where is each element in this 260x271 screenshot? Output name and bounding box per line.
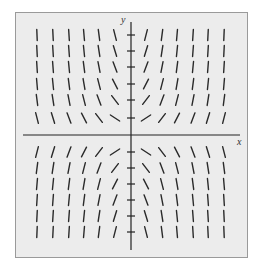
slope-segment [53, 62, 54, 73]
slope-segment [224, 211, 225, 222]
slope-segment [68, 62, 69, 73]
slope-segment [36, 95, 37, 106]
slope-segment [192, 163, 194, 174]
slope-segment [110, 149, 119, 155]
slope-segment [191, 147, 195, 157]
slope-segment [96, 148, 103, 157]
slope-segment [224, 179, 225, 190]
slope-segment [193, 46, 194, 57]
slope-segment [176, 195, 177, 206]
slope-segment [67, 113, 71, 123]
slope-segment [36, 113, 39, 124]
slope-segment [68, 179, 69, 190]
slope-segment [98, 79, 101, 90]
slope-segment [53, 195, 54, 206]
slope-segment [160, 95, 164, 105]
slope-segment [37, 179, 38, 190]
slope-segment [83, 195, 84, 206]
slope-segment [68, 79, 69, 90]
slope-segment [160, 163, 164, 173]
slope-segment [53, 211, 54, 222]
slope-segment [177, 30, 178, 41]
slope-segment [176, 95, 179, 106]
slope-segment [161, 62, 163, 73]
slope-segment [145, 227, 148, 238]
slope-segment [37, 79, 38, 90]
slope-segment [68, 195, 69, 206]
slope-segment [176, 163, 179, 174]
slope-segment [208, 62, 209, 73]
slope-segment [83, 179, 85, 190]
slope-segment [223, 95, 224, 106]
x-axis-label: x [236, 136, 242, 147]
slope-segment [113, 46, 116, 57]
slope-segment [67, 147, 71, 157]
slope-segment [177, 227, 178, 238]
slope-segment [52, 79, 53, 90]
slope-segment [208, 227, 209, 238]
slope-segment [98, 195, 100, 206]
slope-segment [83, 46, 84, 57]
slope-segment [161, 46, 163, 57]
slope-segment [207, 79, 208, 90]
slope-segment [143, 96, 150, 105]
slope-segment [144, 46, 147, 57]
slope-segment [112, 179, 117, 189]
y-axis-label: y [120, 14, 126, 25]
slope-segment [161, 79, 164, 90]
slope-segment [53, 227, 54, 238]
slope-segment [51, 147, 54, 158]
slope-segment [207, 163, 209, 174]
slope-segment [37, 46, 38, 57]
slope-segment [192, 179, 193, 190]
slope-segment [141, 115, 150, 121]
slope-segment [144, 62, 148, 72]
slope-segment [176, 62, 177, 73]
slope-segment [98, 30, 99, 41]
slope-segment [69, 227, 70, 238]
slope-segment [176, 211, 177, 222]
slope-segment [206, 147, 209, 158]
slope-segment [69, 46, 70, 57]
slope-segment [141, 149, 150, 155]
slope-segment [192, 95, 194, 106]
slope-segment [174, 113, 179, 123]
slope-segment [206, 113, 209, 124]
slope-segment [192, 79, 193, 90]
slope-segment [98, 46, 100, 57]
slope-segment [81, 147, 86, 157]
slope-segment [223, 147, 226, 158]
slope-segment [145, 30, 148, 41]
slope-segment [112, 96, 119, 105]
slope-segment [161, 195, 163, 206]
slope-segment [84, 30, 85, 41]
slope-segment [159, 114, 166, 123]
slope-segment [161, 211, 163, 222]
slope-segment [114, 227, 117, 238]
slope-segment [68, 163, 70, 174]
slope-segment [224, 195, 225, 206]
slope-segment [176, 46, 177, 57]
slope-segment [83, 62, 84, 73]
slope-segment [176, 79, 178, 90]
slope-segment [52, 163, 54, 174]
slope-segment [113, 62, 117, 72]
slope-segment [69, 211, 70, 222]
slope-segment [97, 163, 101, 173]
slope-segment [223, 163, 224, 174]
slope-segment [208, 211, 209, 222]
slope-segment [143, 79, 148, 89]
slope-segment [83, 163, 86, 174]
slope-segment [36, 147, 39, 158]
slope-segment [53, 30, 54, 41]
slope-segment [83, 211, 84, 222]
slope-segment [96, 114, 103, 123]
slope-segment [191, 113, 195, 123]
slope-segment [112, 79, 117, 89]
slope-segment [208, 46, 209, 57]
slope-segment [98, 179, 101, 190]
slope-segment [144, 195, 148, 205]
slope-segment [208, 30, 209, 41]
slope-segment [37, 62, 38, 73]
slope-segment [207, 179, 208, 190]
